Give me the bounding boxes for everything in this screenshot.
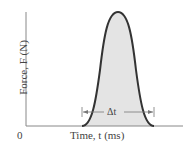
interval-label: Δt	[107, 107, 116, 117]
interval-arrow-right	[148, 110, 153, 114]
force-time-plot	[0, 0, 190, 145]
interval-arrow-left	[83, 110, 88, 114]
origin-label: 0	[17, 130, 23, 141]
y-axis-label: Force, F (N)	[18, 23, 29, 113]
x-axis-label: Time, t (ms)	[70, 130, 124, 141]
force-time-figure: Force, F (N) Time, t (ms) 0 Δt	[0, 0, 190, 145]
